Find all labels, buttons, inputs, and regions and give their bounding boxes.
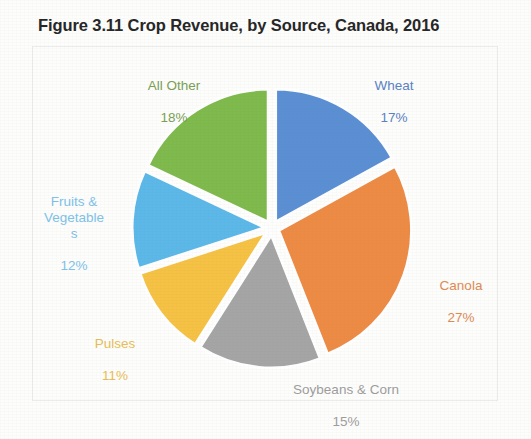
pie-label-canola-name: Canola (418, 278, 504, 294)
pie-label-pulses: Pulses 11% (72, 320, 158, 400)
pie-label-soybeans-corn: Soybeans & Corn 15% (258, 366, 434, 439)
pie-label-wheat-name: Wheat (348, 78, 440, 94)
pie-label-all-other-value: 18% (118, 110, 230, 126)
pie-label-canola: Canola 27% (418, 262, 504, 342)
pie-label-pulses-value: 11% (72, 368, 158, 384)
pie-label-fruits-vegetables-name: Fruits & Vegetable s (22, 194, 126, 242)
pie-label-fruits-vegetables: Fruits & Vegetable s 12% (22, 178, 126, 289)
pie-label-fruits-vegetables-value: 12% (22, 258, 126, 274)
pie-label-canola-value: 27% (418, 310, 504, 326)
pie-label-pulses-name: Pulses (72, 336, 158, 352)
figure-page: Figure 3.11 Crop Revenue, by Source, Can… (0, 0, 531, 439)
pie-label-wheat-value: 17% (348, 110, 440, 126)
pie-label-all-other: All Other 18% (118, 62, 230, 142)
pie-label-all-other-name: All Other (118, 78, 230, 94)
pie-label-soybeans-corn-name: Soybeans & Corn (258, 382, 434, 398)
pie-label-soybeans-corn-value: 15% (258, 414, 434, 430)
pie-label-wheat: Wheat 17% (348, 62, 440, 142)
